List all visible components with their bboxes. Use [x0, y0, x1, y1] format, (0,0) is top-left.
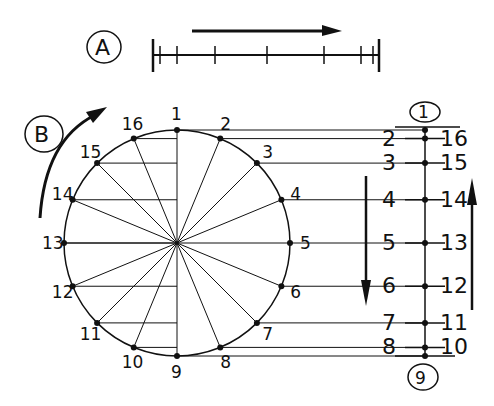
- label-b: B: [34, 122, 49, 147]
- radius-line: [177, 163, 257, 243]
- scale: 1 9 216315414513612711810: [361, 102, 477, 390]
- scale-right-label: 11: [440, 310, 468, 335]
- point-label: 5: [300, 233, 311, 253]
- point-label: 7: [262, 324, 273, 344]
- circle-point: [131, 136, 137, 142]
- scale-right-label: 15: [440, 150, 468, 175]
- scale-point: [422, 136, 428, 142]
- circle-point: [174, 353, 180, 359]
- radius-line: [97, 163, 177, 243]
- scale-left-label: 4: [382, 187, 396, 212]
- scale-right-label: 16: [440, 126, 468, 151]
- scale-top-label: 1: [418, 102, 429, 122]
- diagram-canvas: A B 12345678910111213141516 1 9 21631541…: [0, 0, 494, 406]
- scale-point: [422, 240, 428, 246]
- scale-point: [422, 344, 428, 350]
- arrow-down-head-icon: [361, 280, 371, 306]
- point-label: 1: [171, 104, 182, 124]
- circle-point: [254, 320, 260, 326]
- point-label: 4: [290, 184, 301, 204]
- point-label: 6: [290, 282, 301, 302]
- arrow-right-head-icon: [322, 25, 342, 36]
- point-label: 15: [80, 142, 102, 162]
- scale-point: [422, 320, 428, 326]
- point-label: 9: [171, 362, 182, 382]
- point-label: 2: [220, 114, 231, 134]
- point-label: 14: [52, 184, 74, 204]
- scale-left-label: 5: [382, 230, 396, 255]
- circle-point: [254, 160, 260, 166]
- scale-left-label: 8: [382, 334, 396, 359]
- label-a: A: [95, 35, 110, 60]
- scale-right-label: 12: [440, 273, 468, 298]
- scale-point: [422, 283, 428, 289]
- point-label: 12: [52, 282, 74, 302]
- circle-point: [131, 344, 137, 350]
- point-label: 10: [122, 352, 144, 372]
- scale-point: [422, 160, 428, 166]
- scale-point: [422, 197, 428, 203]
- circle-point: [174, 127, 180, 133]
- point-label: 11: [80, 324, 102, 344]
- scale-left-label: 6: [382, 273, 396, 298]
- point-label: 3: [262, 142, 273, 162]
- point-label: 16: [122, 114, 144, 134]
- scale-point: [422, 353, 428, 359]
- point-label: 8: [220, 352, 231, 372]
- point-label: 13: [42, 233, 64, 253]
- scale-ticks: 216315414513612711810: [382, 126, 468, 360]
- scale-point: [422, 127, 428, 133]
- circle-point: [217, 136, 223, 142]
- scale-right-label: 10: [440, 334, 468, 359]
- scale-left-label: 2: [382, 126, 396, 151]
- arrow-up-head-icon: [467, 178, 477, 205]
- scale-left-label: 7: [382, 310, 396, 335]
- scale-right-label: 14: [440, 187, 468, 212]
- circle-point: [278, 197, 284, 203]
- part-a: A: [87, 25, 379, 72]
- circle-point: [217, 344, 223, 350]
- circle-point: [278, 283, 284, 289]
- scale-right-label: 13: [440, 230, 468, 255]
- radius-line: [177, 243, 257, 323]
- scale-bottom-label: 9: [415, 368, 426, 388]
- scale-left-label: 3: [382, 150, 396, 175]
- arrow-clockwise-head-icon: [86, 107, 107, 123]
- radius-line: [97, 243, 177, 323]
- circle-point: [287, 240, 293, 246]
